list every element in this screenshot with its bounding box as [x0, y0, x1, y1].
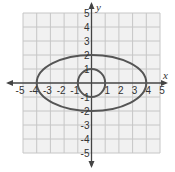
- x-tick-label: 4: [146, 85, 152, 96]
- y-tick-label: -2: [81, 106, 90, 117]
- y-axis-arrow-down-icon: [89, 161, 95, 168]
- y-tick-label: 1: [84, 64, 90, 75]
- y-tick-label: -1: [81, 92, 90, 103]
- x-tick-label: 5: [159, 85, 165, 96]
- y-tick-label: -4: [81, 134, 90, 145]
- y-tick-label: -5: [81, 148, 90, 159]
- x-tick-label: -1: [70, 85, 79, 96]
- y-tick-label: 4: [84, 22, 90, 33]
- x-tick-label: -5: [16, 85, 25, 96]
- x-tick-label: 2: [118, 85, 124, 96]
- y-tick-label: 5: [84, 8, 90, 19]
- x-axis-arrow-left-icon: [6, 80, 13, 86]
- coordinate-plane: -5-4-3-2-112345 54321-1-2-3-4-5 x y: [0, 0, 175, 172]
- x-tick-label: -4: [29, 85, 38, 96]
- x-tick-label: -3: [43, 85, 52, 96]
- y-tick-label: 2: [84, 50, 90, 61]
- x-tick-label: -2: [57, 85, 66, 96]
- y-tick-label: 3: [84, 36, 90, 47]
- y-tick-label: -3: [81, 120, 90, 131]
- y-axis-label: y: [95, 1, 101, 13]
- x-tick-label: 3: [132, 85, 138, 96]
- x-axis-label: x: [162, 69, 168, 81]
- x-tick-label: 1: [104, 85, 110, 96]
